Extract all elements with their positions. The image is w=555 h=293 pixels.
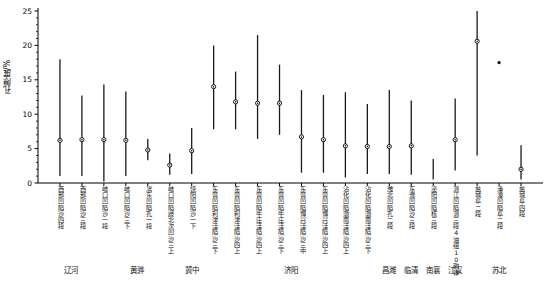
y-tick-label: 5 — [10, 144, 32, 153]
x-axis-category-label: 潜江凹陷潜三段4油组10韵律 — [452, 186, 459, 276]
x-axis-category-label: 饶阳凹陷沙一下 — [189, 186, 196, 229]
region-label: 苏北 — [469, 264, 529, 275]
x-axis-category-label: 盐城阜二段 — [474, 186, 481, 217]
x-axis-category-label: 滨东凹陷孔一段 — [145, 186, 152, 229]
x-axis-category-label: 潍北凹陷孔二段 — [386, 186, 393, 229]
x-axis-category-label: 沾化凹陷渤南洼陷沙三下 — [364, 186, 371, 254]
x-axis-category-label: 岐口凹陷沙三下 — [123, 186, 130, 229]
x-axis-category-label: 岐口凹陷沙一段 — [101, 186, 108, 229]
y-tick-label: 25 — [10, 7, 32, 16]
x-axis-category-label: 东营凹陷牛庄洼陷沙四上 — [255, 186, 262, 254]
porosity-range-chart: 孔隙度/% 西部凹陷沙四段西部凹陷沙三段岐口凹陷沙一段岐口凹陷沙三下滨东凹陷孔一… — [0, 0, 555, 293]
region-label: 辽河 — [41, 264, 101, 275]
x-axis-category-label: 东营凹陷利津洼陷沙四上 — [233, 186, 240, 254]
x-axis-category-label: 沾化凹陷渤南洼陷沙四上 — [342, 186, 349, 254]
x-axis-category-label: 岐口凹陷歧北次凹沙三上 — [167, 186, 174, 254]
x-axis-category-label: 东营凹陷博兴洼陷沙三中 — [298, 186, 305, 254]
y-tick-label: 15 — [10, 75, 32, 84]
x-axis-category-label: 东营凹陷利津洼陷沙三下 — [211, 186, 218, 254]
region-label: 冀中 — [162, 264, 222, 275]
x-axis-category-label: 东营凹陷牛庄洼陷沙三下 — [277, 186, 284, 254]
y-tick-label: 20 — [10, 41, 32, 50]
x-axis-category-label: 西部凹陷沙三段 — [79, 186, 86, 229]
x-axis-category-label: 溱潼凹陷阜二段 — [496, 186, 503, 229]
x-axis-category-label: 泌阳凹陷核三段 — [430, 186, 437, 229]
x-axis-labels: 西部凹陷沙四段西部凹陷沙三段岐口凹陷沙一段岐口凹陷沙三下滨东凹陷孔一段岐口凹陷歧… — [0, 0, 555, 293]
x-axis-category-label: 盐城阜四段 — [518, 186, 525, 217]
x-axis-category-label: 东营凹陷博兴洼陷沙四上 — [320, 186, 327, 254]
region-label: 济阳 — [261, 264, 321, 275]
region-label: 黄骅 — [107, 264, 167, 275]
x-axis-category-label: 西部凹陷沙四段 — [57, 186, 64, 229]
y-tick-label: 0 — [10, 179, 32, 188]
x-axis-category-label: 东濮凹陷沙三段 — [408, 186, 415, 229]
y-tick-label: 10 — [10, 110, 32, 119]
